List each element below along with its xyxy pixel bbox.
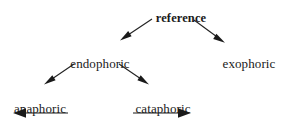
node-anaphoric: anaphoric [14,101,66,116]
node-reference: reference [156,11,206,26]
edge-reference-to-endophoric [120,19,152,41]
node-exophoric: exophoric [223,56,276,71]
reference-taxonomy-diagram: reference endophoric exophoric anaphoric… [0,0,289,123]
node-endophoric: endophoric [70,56,129,71]
node-cataphoric: cataphoric [135,101,190,116]
